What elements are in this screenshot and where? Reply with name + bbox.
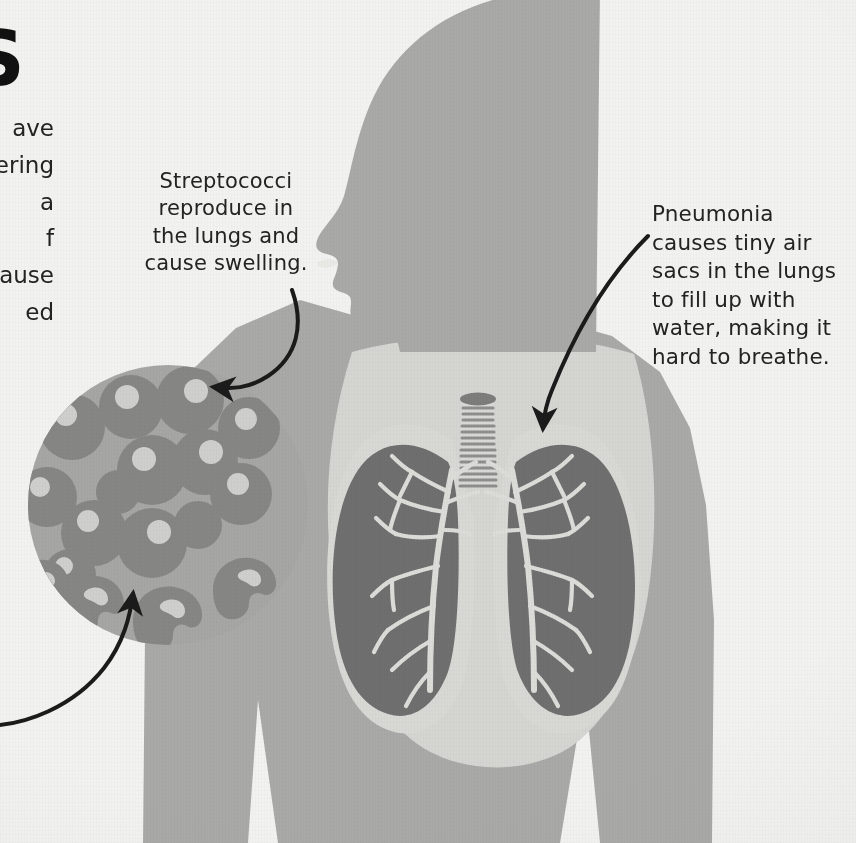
cropped-body-text: ave fering a f ause ed bbox=[0, 110, 54, 331]
annotation-line: cause swelling. bbox=[128, 250, 324, 277]
trachea-cap bbox=[460, 393, 496, 406]
trachea bbox=[460, 393, 496, 489]
annotation-line: to fill up with bbox=[652, 286, 852, 315]
annotation-line: Streptococci bbox=[128, 168, 324, 195]
body-line-fragment: fering bbox=[0, 147, 54, 184]
body-line-fragment: f bbox=[0, 220, 54, 257]
annotation-line: the lungs and bbox=[128, 223, 324, 250]
body-line-fragment: ave bbox=[0, 110, 54, 147]
body-line-fragment: ed bbox=[0, 294, 54, 331]
pneumonia-annotation: Pneumonia causes tiny air sacs in the lu… bbox=[652, 200, 852, 372]
annotation-line: water, making it bbox=[652, 314, 852, 343]
pneumonia-illustration bbox=[0, 0, 856, 843]
streptococci-annotation: Streptococci reproduce in the lungs and … bbox=[128, 168, 324, 277]
body-line-fragment: ause bbox=[0, 257, 54, 294]
annotation-line: hard to breathe. bbox=[652, 343, 852, 372]
annotation-line: Pneumonia bbox=[652, 200, 852, 229]
body-line-fragment: a bbox=[0, 184, 54, 221]
annotation-line: sacs in the lungs bbox=[652, 257, 852, 286]
annotation-line: causes tiny air bbox=[652, 229, 852, 258]
annotation-line: reproduce in bbox=[128, 195, 324, 222]
page-title-fragment: S bbox=[0, 14, 25, 103]
illustration-page: S ave fering a f ause ed Streptococci re… bbox=[0, 0, 856, 843]
head-profile bbox=[316, 0, 600, 352]
